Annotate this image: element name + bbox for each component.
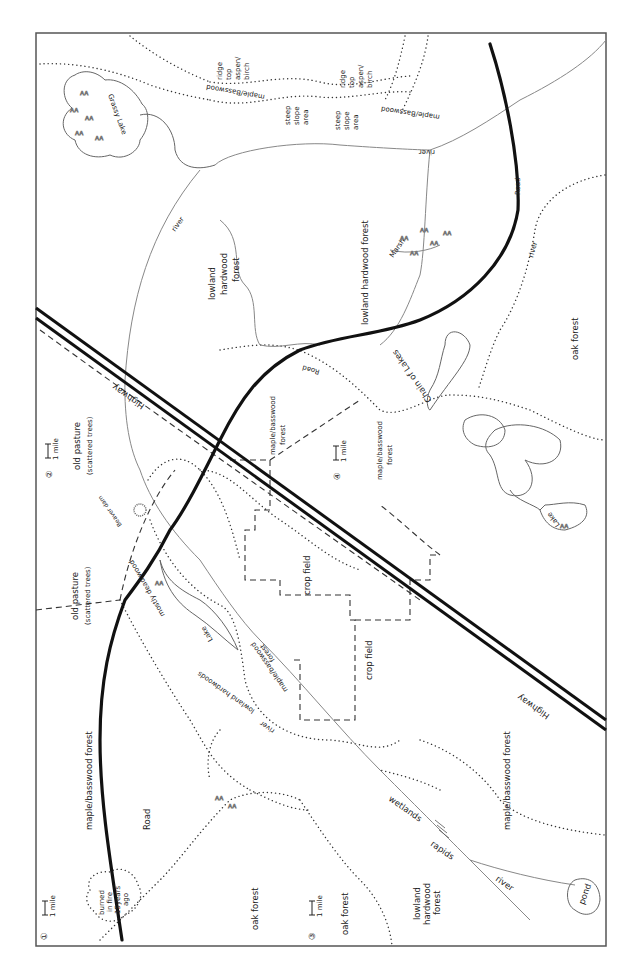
region-boundaries (40, 36, 605, 946)
label-steep-2b: slope (343, 111, 351, 130)
label-river-upper-left: river (170, 215, 186, 233)
svg-text:ʌʌ: ʌʌ (430, 239, 438, 247)
svg-text:ʌʌ: ʌʌ (443, 229, 451, 237)
label-lowland-hardwood-1: lowland (412, 887, 422, 920)
label-steep-1b: slope (293, 106, 301, 125)
label-highway-lower: Highway (515, 692, 551, 721)
panel-4-number: ④ (332, 472, 342, 480)
label-maple-basswood-upper-1: maple/Basswood (206, 83, 266, 101)
svg-text:ʌʌ: ʌʌ (420, 226, 428, 234)
label-grassy-lake: Grassy Lake (106, 93, 128, 136)
beaver-dam-icon (134, 504, 146, 516)
label-ridge-2b: top (348, 76, 356, 88)
label-burned-4: ago (122, 893, 130, 906)
river (125, 40, 606, 920)
svg-text:ʌʌ: ʌʌ (560, 522, 568, 530)
lake-outline (160, 560, 238, 650)
label-maple-basswood-forest-right: maple/basswood forest (502, 731, 512, 830)
hand-drawn-land-map: ʌʌ ʌʌ ʌʌ ʌʌ ʌʌ ʌʌ ʌʌ ʌʌ ʌʌ ʌʌ ʌʌ ʌʌ ʌʌ ʌ… (0, 0, 641, 979)
label-chain-of-lakes: Chain of Lakes (390, 348, 434, 405)
label-ridge-1d: birch (243, 63, 251, 80)
label-river-lower: river (494, 873, 516, 893)
map-border (36, 33, 606, 946)
marsh-reeds: ʌʌ ʌʌ ʌʌ ʌʌ ʌʌ ʌʌ ʌʌ ʌʌ ʌʌ ʌʌ ʌʌ ʌʌ ʌʌ ʌ… (70, 89, 568, 810)
label-lowland-hardwood-2-1: lowland (207, 267, 217, 300)
label-lowland-hardwood-2-2: hardwood (219, 253, 229, 295)
panel-1-scale: 1 mile (49, 895, 57, 917)
label-burned-1: burned (98, 890, 106, 915)
label-road-right: Road (514, 177, 522, 195)
panel-2-number: ② (44, 470, 54, 478)
label-marsh: Marsh (388, 237, 407, 259)
label-ridge-1b: top (225, 68, 233, 80)
label-crop-field-1: crop field (302, 555, 312, 595)
label-ridge-2a: ridge (339, 70, 347, 88)
panel-3-number: ③ (307, 932, 317, 940)
label-maple-basswood-forest-4a: maple/basswood (269, 396, 277, 455)
label-river-right: river (527, 241, 539, 259)
panel-1-number: ① (39, 932, 49, 940)
label-lowland-hardwood-2: hardwood (422, 883, 432, 925)
label-road-mid: Road (301, 364, 320, 376)
label-ridge-1c: aspen/ (234, 56, 242, 80)
rapids-marks (435, 820, 449, 838)
label-oak-forest-2: oak forest (340, 892, 350, 935)
svg-text:ʌʌ: ʌʌ (228, 802, 236, 810)
svg-text:ʌʌ: ʌʌ (85, 114, 93, 122)
label-old-pasture-2b: (scattered trees) (86, 416, 94, 475)
label-maple-basswood-forest-5a: maple/basswood (376, 421, 384, 480)
label-maple-basswood-forest-1: maple/basswood forest (84, 731, 94, 830)
grassy-lake-outline (63, 72, 148, 157)
label-lowland-hardwood-forest-big: lowland hardwood forest (360, 219, 370, 325)
svg-text:ʌʌ: ʌʌ (95, 134, 103, 142)
label-lowland-hardwood-3: forest (432, 890, 442, 915)
panel-4-scale: 1 mile (340, 440, 348, 462)
svg-text:ʌʌ: ʌʌ (80, 89, 88, 97)
road (100, 44, 518, 940)
svg-text:ʌʌ: ʌʌ (155, 579, 163, 587)
label-steep-2c: area (352, 114, 360, 130)
label-oak-forest-1: oak forest (250, 887, 260, 930)
label-road-1: Road (142, 809, 152, 830)
label-lake-small: Lake (546, 510, 562, 528)
label-old-pasture-1b: (scattered trees) (84, 566, 92, 625)
svg-text:ʌʌ: ʌʌ (215, 794, 223, 802)
label-steep-1a: steep (284, 105, 292, 125)
label-steep-2a: steep (334, 110, 342, 130)
label-beaver-dam: Beaver dam (96, 494, 123, 528)
svg-text:ʌʌ: ʌʌ (410, 249, 418, 257)
svg-text:ʌʌ: ʌʌ (75, 129, 83, 137)
label-ridge-2d: birch (366, 71, 374, 88)
label-burned-3: 15years (114, 885, 122, 914)
label-old-pasture-2a: old pasture (72, 422, 82, 470)
label-lowland-hardwood-2-3: forest (231, 257, 241, 282)
labels: ① 1 mile ② 1 mile ③ 1 mile ④ 1 mile mapl… (39, 56, 593, 940)
label-maple-basswood-forest-5b: forest (386, 445, 394, 465)
label-old-pasture-1a: old pasture (70, 572, 80, 620)
highway (36, 308, 606, 730)
label-ridge-1a: ridge (216, 62, 224, 80)
label-highway-upper: Highway (110, 382, 146, 411)
panel-2-scale: 1 mile (52, 438, 60, 460)
label-river-mid: river (258, 719, 276, 735)
label-river-upper: river (419, 148, 435, 156)
label-pond: pond (576, 882, 593, 906)
panel-3-scale: 1 mile (316, 895, 324, 917)
label-burned-2: in fire (106, 892, 114, 912)
label-oak-forest-3: oak forest (570, 317, 580, 360)
label-maple-basswood-forest-4b: forest (279, 425, 287, 445)
label-lowland-hardwoods: lowland hardwoods (196, 669, 256, 715)
label-maple-basswood-forest-diag-1: maple/basswood (249, 641, 289, 694)
label-lake: Lake (200, 625, 215, 643)
svg-text:ʌʌ: ʌʌ (70, 106, 78, 114)
label-crop-field-2: crop field (364, 640, 374, 680)
label-maple-basswood-upper-2: maple/Basswood (380, 105, 440, 121)
chain-of-lakes (427, 332, 587, 530)
label-ridge-2c: aspen/ (357, 64, 365, 88)
label-steep-1c: area (302, 109, 310, 125)
